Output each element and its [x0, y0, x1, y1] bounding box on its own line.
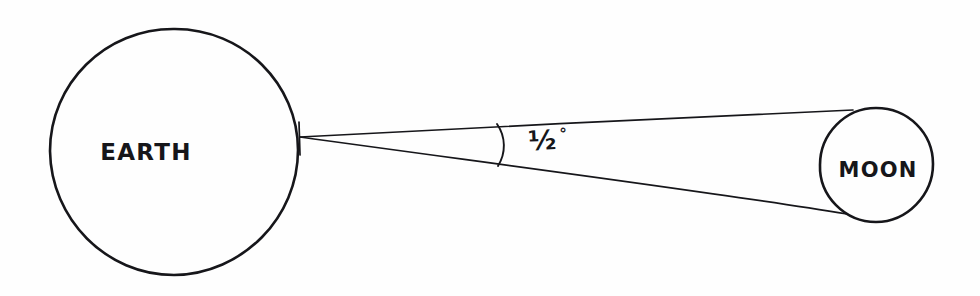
vertex-tick: [299, 122, 300, 155]
angle-fraction: ½: [527, 124, 557, 156]
diagram-canvas: EARTH MOON ½°: [0, 0, 980, 296]
angle-arc: [497, 124, 504, 166]
degree-symbol-icon: °: [559, 124, 568, 142]
earth-label: EARTH: [100, 139, 191, 165]
angle-label: ½°: [527, 123, 568, 156]
upper-sight-line: [300, 110, 853, 137]
moon-label: MOON: [839, 158, 918, 182]
lower-sight-line: [300, 137, 847, 214]
